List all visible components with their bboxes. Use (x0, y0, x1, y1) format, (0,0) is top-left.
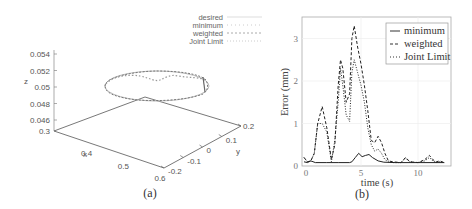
y-tick-label-b: 2 (294, 76, 299, 86)
y-axis-label: y (236, 147, 240, 156)
legend-a-joint-limit: Joint Limit (189, 37, 224, 46)
legend-b: minimum weighted Joint Limit (386, 23, 450, 64)
legend-b-minimum: minimum (404, 25, 445, 36)
legend-b-weighted: weighted (404, 38, 443, 49)
z-axis-label: z (24, 77, 28, 86)
z-tick-label: 0.054 (30, 50, 51, 59)
chart-b-svg: 0510 0123 time (s) Error (mm) minimum we… (265, 0, 472, 209)
weighted-trajectory (106, 75, 205, 84)
y-tick-label: 0.2 (243, 122, 255, 131)
x-tick-label: 0.6 (154, 174, 166, 183)
legend-a: desired minimum weighted Joint Limit (189, 13, 262, 46)
z-tick-label: 0.052 (30, 67, 51, 76)
y-tick-label-b: 3 (294, 34, 299, 44)
chart-a-svg: 0.0460.0480.050.0520.054 z 0.30.40.50.6 … (0, 0, 265, 209)
y-axis-label-b: Error (mm) (279, 67, 291, 116)
y-ticks: -0.2-0.100.10.2 (161, 122, 255, 176)
chart-a-3d-trajectory: 0.0460.0480.050.0520.054 z 0.30.40.50.6 … (0, 0, 265, 209)
y-tick-label: 0.1 (226, 136, 238, 145)
z-tick-label: 0.05 (34, 83, 50, 92)
desired-trajectory (105, 71, 209, 101)
trajectory-curves (105, 71, 209, 101)
x-tick-label: 0.3 (39, 127, 51, 136)
y-tick-mark (200, 145, 203, 147)
x-tick-label-b: 10 (414, 168, 424, 178)
x-axis-label: x (83, 150, 87, 159)
x-ticks: 0.30.40.50.6 (39, 127, 166, 183)
y-tick-label: 0 (207, 146, 212, 155)
y-tick-label-b: 0 (294, 161, 299, 171)
y-tick-label-b: 1 (294, 119, 299, 129)
y-tick-mark (180, 156, 183, 158)
caption-b: (b) (355, 187, 369, 201)
y-tick-label: -0.1 (187, 157, 201, 166)
z-tick-label: 0.046 (30, 116, 51, 125)
z-tick-label: 0.048 (30, 100, 51, 109)
x-tick-label-b: 0 (304, 168, 309, 178)
x-tick-label: 0.5 (118, 162, 130, 171)
y-tick-mark (219, 135, 222, 137)
caption-a: (a) (143, 186, 156, 200)
chart-b-error-vs-time: 0510 0123 time (s) Error (mm) minimum we… (265, 0, 472, 209)
y-ticks-b: 0123 (294, 34, 299, 172)
y-tick-label: -0.2 (168, 167, 182, 176)
legend-b-joint-limit: Joint Limit (404, 51, 450, 62)
z-ticks: 0.0460.0480.050.0520.054 (30, 50, 57, 125)
